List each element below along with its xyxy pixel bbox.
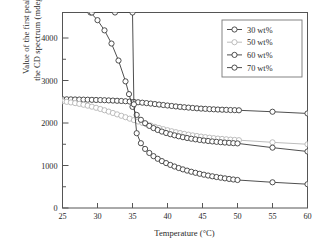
data-point <box>270 140 275 145</box>
y-tick-label: 3000 <box>41 77 57 86</box>
data-point <box>143 146 148 151</box>
legend-marker <box>232 40 237 45</box>
data-point <box>123 79 128 84</box>
data-point <box>270 145 275 150</box>
x-tick-label: 50 <box>233 212 241 221</box>
data-point <box>305 111 310 116</box>
data-point <box>102 28 107 33</box>
y-tick-label: 4000 <box>41 34 57 43</box>
x-tick-label: 25 <box>58 212 66 221</box>
x-tick-label: 30 <box>93 212 101 221</box>
y-tick-label: 1000 <box>41 162 57 171</box>
legend-marker <box>232 65 237 70</box>
legend-label: 60 wt% <box>247 51 273 60</box>
data-point <box>116 58 121 63</box>
data-point <box>235 177 240 182</box>
data-point <box>130 10 135 15</box>
data-point <box>235 141 240 146</box>
chart-plot-area: 01000200030004000 2530354045505560 30 wt… <box>0 0 316 247</box>
data-point <box>270 109 275 114</box>
data-point <box>305 182 310 187</box>
legend-label: 30 wt% <box>247 26 273 35</box>
chart-legend: 30 wt%50 wt%60 wt%70 wt% <box>222 20 302 77</box>
data-point <box>131 102 136 107</box>
legend-marker <box>232 52 237 57</box>
data-point <box>270 180 275 185</box>
x-tick-label: 60 <box>303 212 311 221</box>
data-point <box>126 92 131 97</box>
x-tick-label: 45 <box>198 212 206 221</box>
legend-label: 50 wt% <box>247 38 273 47</box>
legend-label: 70 wt% <box>247 64 273 73</box>
data-point <box>109 41 114 46</box>
chart-figure: Value of the first peak of the CD spectr… <box>0 0 316 247</box>
data-point <box>305 149 310 154</box>
legend-marker <box>232 27 237 32</box>
data-point <box>236 108 241 113</box>
data-point <box>95 18 100 23</box>
data-point <box>138 141 143 146</box>
data-point <box>305 142 310 147</box>
x-tick-label: 55 <box>268 212 276 221</box>
data-point <box>112 10 117 15</box>
data-point <box>89 10 94 15</box>
data-point <box>134 131 139 136</box>
y-tick-label: 0 <box>53 204 57 213</box>
x-tick-label: 35 <box>128 212 136 221</box>
y-tick-label: 2000 <box>41 119 57 128</box>
x-tick-label: 40 <box>163 212 171 221</box>
